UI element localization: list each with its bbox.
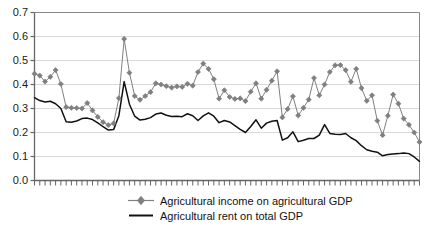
data-point-marker	[385, 113, 390, 118]
legend-label-agricultural-rent: Agricultural rent on total GDP	[156, 210, 303, 222]
data-point-marker	[190, 83, 195, 88]
data-point-marker	[158, 82, 163, 87]
y-axis-tick-label: 0.5	[2, 54, 28, 66]
data-point-marker	[153, 81, 158, 86]
data-point-marker	[211, 77, 216, 82]
data-point-marker	[290, 94, 295, 99]
y-axis-tick-label: 0.1	[2, 150, 28, 162]
y-axis-tick-label: 0.6	[2, 30, 28, 42]
data-point-marker	[74, 105, 79, 110]
solid-line-key-icon	[126, 208, 156, 223]
data-point-marker	[280, 115, 285, 120]
data-point-marker	[348, 79, 353, 84]
data-point-marker	[248, 89, 253, 94]
data-point-marker	[275, 69, 280, 74]
chart-legend: Agricultural income on agricultural GDP …	[126, 193, 426, 223]
diamond-line-key-icon	[126, 193, 156, 208]
data-point-marker	[354, 66, 359, 71]
data-point-marker	[380, 133, 385, 138]
data-point-marker	[232, 96, 237, 101]
data-point-marker	[32, 71, 37, 76]
y-axis-tick-label: 0.3	[2, 102, 28, 114]
data-point-marker	[259, 96, 264, 101]
data-point-marker	[417, 140, 422, 145]
y-axis-tick-label: 0.0	[2, 174, 28, 186]
grid-lines	[35, 13, 420, 157]
chart-container: 0.00.10.20.30.40.50.60.7 Agricultural in…	[0, 0, 440, 235]
data-point-marker	[306, 97, 311, 102]
data-point-marker	[253, 81, 258, 86]
data-point-marker	[169, 85, 174, 90]
data-point-marker	[216, 96, 221, 101]
data-point-marker	[243, 98, 248, 103]
data-point-marker	[106, 122, 111, 127]
data-point-marker	[127, 70, 132, 75]
y-axis-tick-label: 0.2	[2, 126, 28, 138]
y-axis-tick-label: 0.4	[2, 78, 28, 90]
data-point-marker	[359, 86, 364, 91]
data-point-marker	[322, 82, 327, 87]
data-point-marker	[185, 81, 190, 86]
legend-item-agricultural-income: Agricultural income on agricultural GDP	[126, 193, 426, 208]
data-point-marker	[317, 93, 322, 98]
legend-item-agricultural-rent: Agricultural rent on total GDP	[126, 208, 426, 223]
axis-lines	[35, 13, 420, 181]
legend-label-agricultural-income: Agricultural income on agricultural GDP	[156, 195, 353, 207]
series-agricultural-income-on-agricultural-gdp	[32, 36, 422, 144]
data-point-marker	[195, 69, 200, 74]
data-point-marker	[311, 75, 316, 80]
y-axis-tick-label: 0.7	[2, 6, 28, 18]
data-point-marker	[285, 106, 290, 111]
x-axis-ticks	[35, 181, 420, 186]
data-point-marker	[238, 96, 243, 101]
data-point-marker	[180, 84, 185, 89]
data-point-marker	[264, 87, 269, 92]
data-point-marker	[122, 36, 127, 41]
data-point-marker	[58, 81, 63, 86]
data-point-marker	[375, 118, 380, 123]
data-point-marker	[69, 105, 74, 110]
data-point-marker	[396, 101, 401, 106]
data-point-marker	[391, 92, 396, 97]
data-point-marker	[269, 78, 274, 83]
